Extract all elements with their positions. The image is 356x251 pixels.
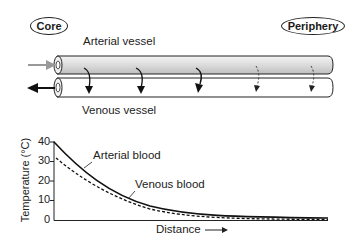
arterial-vessel <box>54 56 333 74</box>
y-tick-0: 0 <box>44 213 50 225</box>
inflow-arrow-icon <box>28 60 56 70</box>
arterial-blood-annotation: Arterial blood <box>93 149 161 161</box>
venous-blood-annotation: Venous blood <box>135 178 205 190</box>
y-tick-40: 40 <box>38 135 50 147</box>
x-axis-label: Distance <box>156 223 201 235</box>
y-axis-label: Temperature (°C) <box>19 135 31 225</box>
venous-vessel <box>54 78 333 97</box>
y-tick-20: 20 <box>38 174 50 186</box>
y-tick-10: 10 <box>38 193 50 205</box>
vessel-diagram <box>0 0 356 251</box>
y-tick-30: 30 <box>38 154 50 166</box>
outflow-arrow-icon <box>27 83 55 93</box>
